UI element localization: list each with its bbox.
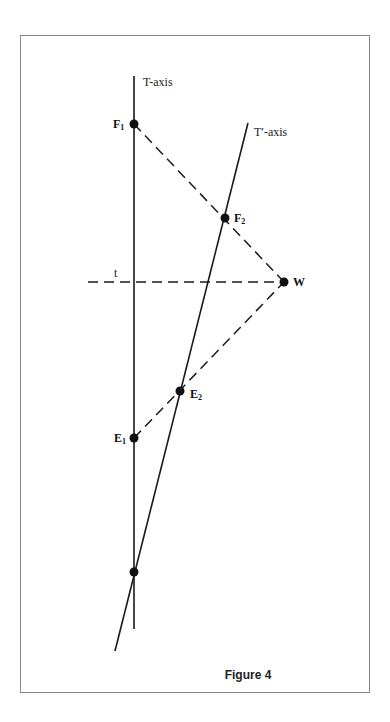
point-f1 <box>130 120 139 129</box>
label-e1: E1 <box>114 431 126 446</box>
point-w <box>280 278 289 287</box>
f1-w-dashed-line <box>134 124 284 282</box>
point-e2 <box>176 387 185 396</box>
spacetime-diagram: T-axis T′-axis t F1 F2 W E2 E1 <box>0 0 390 722</box>
e1-w-dashed-line <box>134 282 284 438</box>
t-line-label: t <box>114 266 118 280</box>
label-e2: E2 <box>190 387 202 402</box>
label-f2: F2 <box>234 211 245 226</box>
label-f1: F1 <box>113 117 124 132</box>
figure-caption: Figure 4 <box>200 668 296 682</box>
t-axis-label: T-axis <box>143 75 173 89</box>
label-w: W <box>293 275 305 289</box>
point-e1 <box>130 434 139 443</box>
point-origin <box>130 568 139 577</box>
t-prime-axis-label: T′-axis <box>254 125 288 139</box>
point-f2 <box>221 214 230 223</box>
